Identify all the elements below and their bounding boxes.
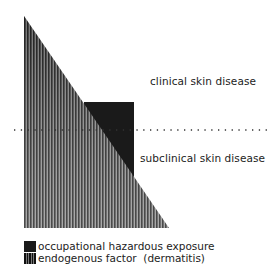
clinical-label: clinical skin disease: [150, 75, 256, 87]
legend-label: occupational hazardous exposure: [38, 240, 215, 252]
diagram-canvas: [0, 0, 275, 280]
legend-label: endogenous factor (dermatitis): [38, 252, 205, 264]
legend: occupational hazardous exposure endogeno…: [24, 240, 215, 264]
triangle-shading: [24, 16, 169, 228]
subclinical-label: subclinical skin disease: [140, 152, 265, 164]
solid-swatch-icon: [24, 241, 36, 252]
legend-item-endogenous: endogenous factor (dermatitis): [24, 252, 215, 264]
legend-item-occupational: occupational hazardous exposure: [24, 240, 215, 252]
striped-swatch-icon: [24, 253, 36, 264]
